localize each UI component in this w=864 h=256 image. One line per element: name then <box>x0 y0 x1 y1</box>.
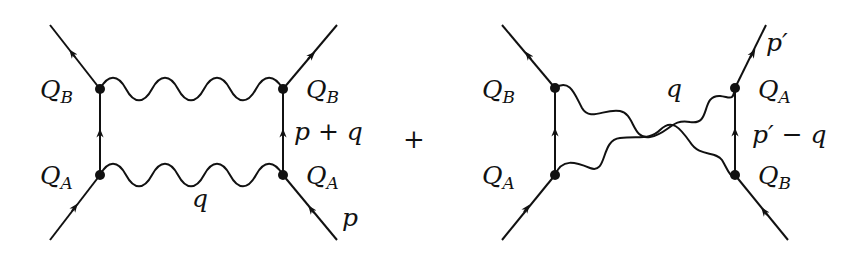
label-p-prime-minus-q: p′ − q <box>752 122 827 147</box>
label-qb-top-left: QB <box>482 77 515 106</box>
label-qa-bottom-left: QA <box>40 163 73 192</box>
label-qa-bottom-left: QA <box>482 163 515 192</box>
photon-line-crossed-2 <box>555 125 735 176</box>
label-qb-bottom-right: QB <box>758 163 791 192</box>
label-q-photon: q <box>192 186 208 211</box>
label-qa-bottom-right: QA <box>306 163 339 192</box>
label-p-plus-q: p + q <box>294 119 363 144</box>
vertex-top-right <box>278 84 288 94</box>
photon-line-crossed-1 <box>555 85 735 137</box>
label-qb-top-right: QB <box>306 77 339 106</box>
vertex-bottom-left <box>550 170 560 180</box>
label-qa-top-right: QA <box>758 77 791 106</box>
label-q-photon: q <box>666 76 682 101</box>
crossed-box-diagram <box>502 25 788 240</box>
label-p-incoming: p <box>342 205 358 230</box>
plus-operator: + <box>403 126 425 152</box>
vertex-top-left <box>95 84 105 94</box>
vertex-bottom-right <box>730 170 740 180</box>
vertex-bottom-right <box>278 170 288 180</box>
photon-line-bottom <box>100 164 283 187</box>
vertex-bottom-left <box>95 170 105 180</box>
label-qb-top-left: QB <box>40 77 73 106</box>
label-p-prime-outgoing: p′ <box>766 30 788 55</box>
photon-line-top <box>100 78 283 101</box>
vertex-top-right <box>730 83 740 93</box>
vertex-top-left <box>550 83 560 93</box>
feynman-diagrams-canvas <box>0 0 864 256</box>
